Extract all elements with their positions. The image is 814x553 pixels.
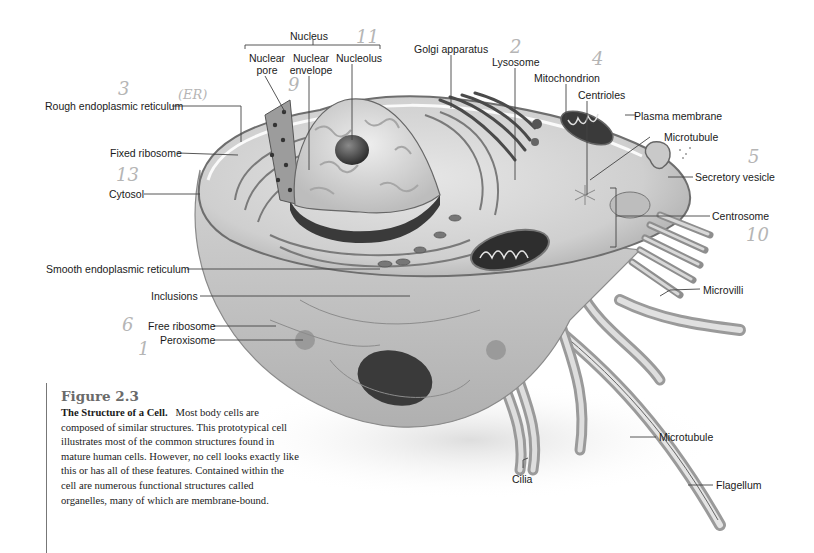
handwritten-number-13: 13 [116,166,139,184]
figure-caption: Figure 2.3 The Structure of a Cell. Most… [46,383,301,553]
handwritten-er: (ER) [178,86,207,104]
label-microtubule-bottom: Microtubule [659,431,713,443]
label-centrosome: Centrosome [712,210,769,222]
handwritten-number-9: 9 [288,76,299,94]
label-mitochondrion: Mitochondrion [534,72,600,84]
label-nucleus: Nucleus [290,30,328,42]
handwritten-number-10: 10 [746,226,769,244]
figure-number: Figure 2.3 [61,388,301,404]
label-nuclear-pore-line1: Nuclear [245,52,289,64]
caption-title: The Structure of a Cell. [61,407,168,418]
handwritten-number-1: 1 [138,340,149,358]
label-nuclear-pore: Nuclear pore [245,52,289,76]
caption-body: The Structure of a Cell. Most body cells… [61,406,301,508]
handwritten-number-2: 2 [510,38,521,56]
label-lysosome: Lysosome [492,56,539,68]
label-flagellum: Flagellum [716,479,762,491]
label-cytosol: Cytosol [109,188,144,200]
label-nuclear-envelope: Nuclear envelope [287,52,335,76]
label-nucleolus: Nucleolus [336,52,382,64]
label-nuclear-pore-line2: pore [245,64,289,76]
handwritten-number-3: 3 [118,80,129,98]
label-golgi-apparatus: Golgi apparatus [414,43,488,55]
textbook-figure: Nucleus Nuclear pore Nuclear envelope Nu… [0,0,814,553]
label-centrioles: Centrioles [578,89,625,101]
label-microtubule-top: Microtubule [664,131,718,143]
label-cilia: Cilia [512,473,532,485]
label-plasma-membrane: Plasma membrane [634,110,722,122]
label-nuclear-envelope-line1: Nuclear [287,52,335,64]
label-secretory-vesicle: Secretory vesicle [695,171,775,183]
handwritten-number-11: 11 [356,28,379,46]
handwritten-number-6: 6 [122,316,133,334]
label-free-ribosome: Free ribosome [148,320,216,332]
handwritten-number-5: 5 [748,148,759,166]
label-smooth-er: Smooth endoplasmic reticulum [46,263,190,275]
label-microvilli: Microvilli [703,284,743,296]
label-fixed-ribosome: Fixed ribosome [110,147,182,159]
label-rough-er: Rough endoplasmic reticulum [45,100,183,112]
label-peroxisome: Peroxisome [160,334,215,346]
label-inclusions: Inclusions [151,290,198,302]
caption-text: Most body cells are composed of similar … [61,407,299,506]
handwritten-number-4: 4 [592,50,603,68]
